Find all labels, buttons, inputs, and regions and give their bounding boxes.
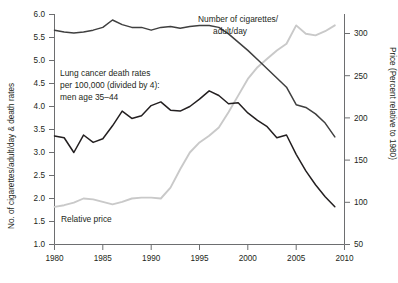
left-ytick-label-5.5: 5.5 — [34, 33, 46, 42]
annotation-cigarettes-line2: adult/day — [213, 26, 248, 36]
right-ytick-label-200: 200 — [354, 114, 368, 123]
right-ytick-label-50: 50 — [354, 240, 364, 249]
x-ticks: 1980 1985 1990 1995 2000 2005 2010 — [45, 245, 354, 264]
xtick-label-1985: 1985 — [94, 254, 113, 263]
left-ytick-label-6.0: 6.0 — [34, 10, 46, 19]
left-ytick-label-1.0: 1.0 — [34, 240, 46, 249]
left-ytick-label-3.0: 3.0 — [34, 148, 46, 157]
series-group — [55, 20, 335, 207]
xtick-label-2000: 2000 — [239, 254, 258, 263]
right-y-ticks: 50 100 150 200 250 300 — [345, 29, 369, 249]
xtick-label-1990: 1990 — [142, 254, 161, 263]
left-ytick-label-1.5: 1.5 — [34, 217, 46, 226]
chart-svg: 1.0 1.5 2.0 2.5 3.0 3.5 4.0 4.5 5.0 5.5 … — [0, 0, 398, 283]
left-ytick-label-4.5: 4.5 — [34, 79, 46, 88]
right-ytick-label-250: 250 — [354, 72, 368, 81]
left-ytick-label-2.0: 2.0 — [34, 194, 46, 203]
xtick-label-2010: 2010 — [335, 254, 354, 263]
right-ytick-label-300: 300 — [354, 29, 368, 38]
annotation-lung-cancer-line2: per 100,000 (divided by 4): — [60, 80, 160, 90]
line-cigarettes-per-adult-per-day — [55, 20, 335, 137]
right-ytick-label-150: 150 — [354, 156, 368, 165]
xtick-label-1995: 1995 — [190, 254, 209, 263]
line-relative-price — [55, 25, 335, 206]
chart-figure: 1.0 1.5 2.0 2.5 3.0 3.5 4.0 4.5 5.0 5.5 … — [0, 0, 398, 283]
left-ytick-label-3.5: 3.5 — [34, 125, 46, 134]
right-axis-title: Price (Percent relative to 1980) — [388, 47, 397, 160]
left-ytick-label-4.0: 4.0 — [34, 102, 46, 111]
right-ytick-label-100: 100 — [354, 198, 368, 207]
annotation-lung-cancer: Lung cancer death rates per 100,000 (div… — [60, 68, 160, 102]
left-y-ticks: 1.0 1.5 2.0 2.5 3.0 3.5 4.0 4.5 5.0 5.5 … — [34, 10, 55, 249]
annotation-relative-price-line1: Relative price — [61, 214, 112, 224]
left-axis-title: No. of cigarettes/adult/day & death rate… — [7, 83, 16, 229]
annotation-lung-cancer-line1: Lung cancer death rates — [60, 68, 150, 78]
left-ytick-label-5.0: 5.0 — [34, 56, 46, 65]
xtick-label-1980: 1980 — [45, 254, 64, 263]
annotation-lung-cancer-line3: men age 35–44 — [60, 92, 119, 102]
annotation-cigarettes-line1: Number of cigarettes/ — [198, 14, 279, 24]
annotation-relative-price: Relative price — [61, 214, 112, 224]
xtick-label-2005: 2005 — [287, 254, 306, 263]
left-ytick-label-2.5: 2.5 — [34, 171, 46, 180]
